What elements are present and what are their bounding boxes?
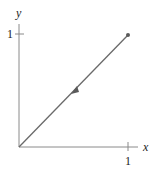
diagram-canvas: y 1 x 1 (0, 0, 159, 172)
x-tick-label: 1 (125, 154, 131, 168)
endpoint-dot (126, 33, 130, 37)
y-tick-label: 1 (7, 27, 13, 41)
x-axis-label: x (142, 140, 149, 154)
y-axis-label: y (15, 6, 22, 20)
